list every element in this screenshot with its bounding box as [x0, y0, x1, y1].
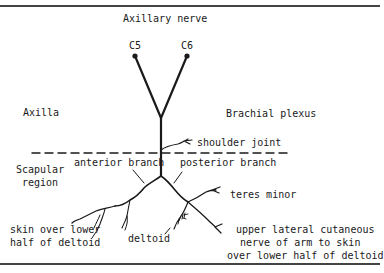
- upper-lateral-cutaneous-label-line2: nerve of arm to skin: [240, 237, 360, 249]
- posterior-branch-nerve: [161, 176, 188, 202]
- c5-root-dot: [132, 53, 137, 58]
- skin-lower-deltoid-label-line1: skin over lower: [10, 224, 100, 236]
- c6-root-dot: [184, 53, 189, 58]
- c6-root-line: [161, 56, 187, 118]
- upper-lateral-cutaneous-branch: [188, 202, 222, 233]
- upper-lateral-cutaneous-label-line1: upper lateral cutaneous: [236, 224, 374, 236]
- shoulder-joint-branch: [161, 139, 192, 150]
- upper-lateral-cutaneous-label-line3: over lower half of deltoid: [227, 250, 384, 262]
- anterior-branch-nerve: [115, 176, 161, 206]
- anterior-cutaneous-branch: [72, 206, 115, 223]
- diagram-title: Axillary nerve: [123, 13, 207, 25]
- deltoid-twig-posterior-3: [183, 214, 188, 219]
- anterior-branch-label: anterior branch: [74, 157, 164, 169]
- anterior-branch-pointer: [133, 170, 144, 183]
- posterior-branch-label: posterior branch: [180, 157, 276, 169]
- scapular-region-label-line2: region: [22, 177, 58, 189]
- c5-root-line: [135, 56, 161, 118]
- brachial-plexus-label: Brachial plexus: [226, 108, 316, 120]
- posterior-branch-pointer: [174, 172, 182, 183]
- deltoid-label: deltoid: [128, 233, 170, 245]
- teres-minor-branch: [188, 187, 220, 202]
- axilla-label: Axilla: [23, 107, 59, 119]
- c6-label: C6: [181, 40, 193, 52]
- teres-minor-label: teres minor: [230, 189, 296, 201]
- scapular-region-label-line1: Scapular: [16, 164, 64, 176]
- skin-lower-deltoid-label-line2: half of deltoid: [10, 237, 100, 249]
- c5-label: C5: [129, 40, 141, 52]
- shoulder-joint-label: shoulder joint: [197, 137, 281, 149]
